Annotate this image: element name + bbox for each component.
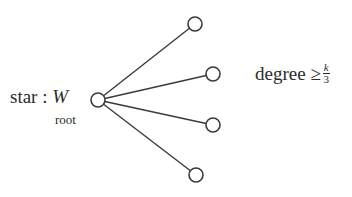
node-leaf3	[206, 118, 220, 132]
node-root	[91, 93, 105, 107]
star-label: star : W	[10, 86, 68, 108]
root-subscript-label: root	[55, 112, 76, 128]
fraction-denominator: 3	[324, 74, 330, 85]
edge-root-leaf1	[104, 28, 190, 95]
node-leaf1	[188, 17, 202, 31]
fraction-k-over-3: k 3	[323, 62, 330, 85]
degree-label: degree ≥ k 3	[255, 62, 330, 85]
star-diagram: star : W root degree ≥ k 3	[0, 0, 352, 197]
node-leaf2	[206, 67, 220, 81]
star-prefix-text: star :	[10, 86, 52, 107]
degree-text: degree ≥	[255, 63, 321, 85]
node-leaf4	[189, 168, 203, 182]
star-variable-w: W	[52, 86, 68, 107]
edge-root-leaf3	[105, 101, 206, 123]
edge-root-leaf2	[105, 76, 206, 99]
edge-root-leaf4	[104, 104, 191, 170]
